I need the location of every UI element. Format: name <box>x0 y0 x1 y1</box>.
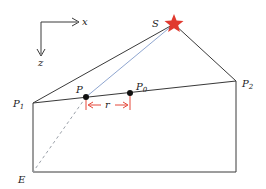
label-p1: P1 <box>12 98 24 111</box>
point-p <box>83 94 89 100</box>
label-e: E <box>17 174 26 185</box>
point-p0 <box>127 90 133 96</box>
boundary-lines <box>33 81 236 172</box>
surface-p1-p2 <box>33 81 236 103</box>
ray-geometry-diagram: x z r S P1 P2 P P0 E <box>0 0 266 189</box>
label-s: S <box>152 18 159 29</box>
label-p: P <box>75 84 83 95</box>
r-label: r <box>105 99 111 110</box>
z-axis-label: z <box>37 57 44 68</box>
ray-s-p <box>86 24 174 97</box>
axes-icon <box>37 18 79 56</box>
label-p2: P2 <box>241 78 254 91</box>
x-axis-label: x <box>82 16 88 27</box>
edge-s-p1 <box>33 24 174 103</box>
edge-s-p2 <box>174 24 236 81</box>
dashed-p-e <box>33 97 86 172</box>
